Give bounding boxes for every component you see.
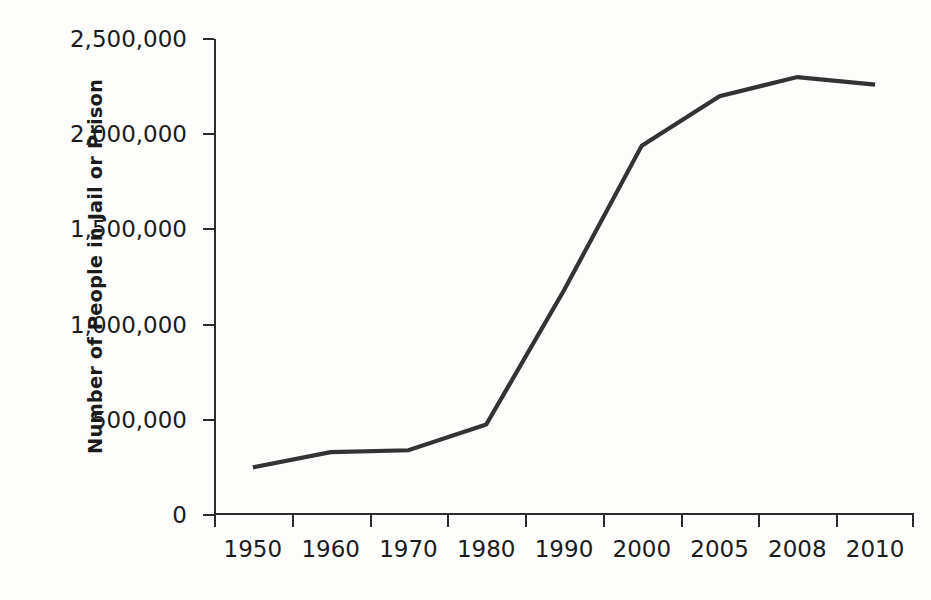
x-tick-label: 2010 — [846, 536, 905, 562]
y-tick-label: 2,000,000 — [70, 121, 187, 147]
y-tick: 500,000 — [203, 419, 214, 421]
x-tick — [603, 515, 605, 527]
y-tick: 1,500,000 — [203, 228, 214, 230]
y-tick-label: 0 — [172, 502, 187, 528]
x-tick — [912, 515, 914, 527]
y-tick-label: 500,000 — [92, 407, 187, 433]
series-line-jail-or-prison-population — [214, 39, 914, 515]
plot-area: 0500,0001,000,0001,500,0002,000,0002,500… — [214, 39, 914, 514]
x-tick-label: 2005 — [690, 536, 749, 562]
x-tick — [447, 515, 449, 527]
x-tick-label: 1970 — [379, 536, 438, 562]
x-tick — [370, 515, 372, 527]
x-tick-label: 2008 — [768, 536, 827, 562]
x-tick-label: 1950 — [224, 536, 283, 562]
x-tick — [758, 515, 760, 527]
x-tick-label: 1990 — [535, 536, 594, 562]
x-tick-label: 2000 — [612, 536, 671, 562]
y-tick: 2,500,000 — [203, 38, 214, 40]
y-tick-label: 2,500,000 — [70, 26, 187, 52]
series-path — [253, 77, 875, 467]
line-chart: Number of People in Jail or Prison 0500,… — [0, 0, 931, 600]
x-tick — [525, 515, 527, 527]
x-tick-label: 1980 — [457, 536, 516, 562]
x-tick — [836, 515, 838, 527]
y-tick: 0 — [203, 514, 214, 516]
x-tick — [292, 515, 294, 527]
y-tick-label: 1,500,000 — [70, 216, 187, 242]
x-tick — [681, 515, 683, 527]
x-tick-label: 1960 — [301, 536, 360, 562]
y-tick: 1,000,000 — [203, 324, 214, 326]
y-tick-label: 1,000,000 — [70, 312, 187, 338]
y-tick: 2,000,000 — [203, 133, 214, 135]
x-tick — [214, 515, 216, 527]
